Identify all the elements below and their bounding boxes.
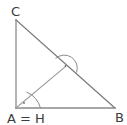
vertex-label-b: B [115,110,124,125]
vertex-label-c: C [11,4,20,19]
geometry-canvas: C B A = H [0,0,127,125]
vertex-label-a-equals-h: A = H [7,111,45,125]
right-angle-dot-at-vertex-a [23,102,25,104]
altitude-segment-a-to-foot [16,67,65,108]
geometry-figure: C B A = H [0,0,127,125]
right-angle-arc-at-vertex-a [27,92,41,108]
right-angle-dot-at-foot [65,65,67,67]
